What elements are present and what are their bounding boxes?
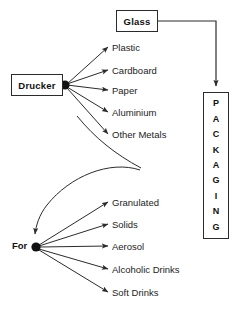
node-glass[interactable]: Glass [116,10,158,32]
leaf-label-plastic[interactable]: Plastic [112,43,140,53]
connector-group-drucker [67,47,108,134]
packaging-letter: C [213,130,220,139]
leaf-label-other-metals[interactable]: Other Metals [112,130,166,140]
leaf-label-cardboard[interactable]: Cardboard [112,66,157,76]
connector-drucker-other-metals [67,88,108,134]
leaf-label-aerosol[interactable]: Aerosol [112,242,144,252]
node-for[interactable]: For [12,241,27,251]
packaging-letter: G [212,176,219,185]
connector-for-soft-drinks [39,250,108,292]
packaging-letter: K [213,146,220,155]
leaf-label-aluminium[interactable]: Aluminium [112,108,156,118]
packaging-letter: P [213,99,219,108]
for-junction-dot [31,242,40,251]
leaf-label-granulated[interactable]: Granulated [112,198,159,208]
connector-for-aerosol [40,246,108,247]
packaging-letter: N [213,207,220,216]
node-packaging[interactable]: P A C K A G I N G [203,92,229,239]
leaf-label-paper[interactable]: Paper [112,86,137,96]
packaging-letter: A [213,161,220,170]
node-drucker[interactable]: Drucker [11,74,63,96]
connector-glass-to-packaging [158,21,216,86]
connector-for-alcoholic-drinks [39,249,108,269]
connector-drucker-aluminium [67,87,108,112]
leaf-label-alcoholic-drinks[interactable]: Alcoholic Drinks [112,265,180,275]
connector-group-for [39,202,108,292]
connector-for-solids [39,224,108,246]
connector-drucker-plastic [67,47,108,84]
connector-drucker-paper [67,85,108,90]
connector-drucker-cardboard [67,70,108,84]
leaf-label-solids[interactable]: Solids [112,220,138,230]
packaging-letter: I [215,192,218,201]
connector-for-granulated [39,202,108,245]
packaging-letter: A [213,115,220,124]
packaging-letter: G [212,223,219,232]
diagram-canvas: Glass Drucker For P A C K A G I N G Plas… [0,0,235,314]
leaf-label-soft-drinks[interactable]: Soft Drinks [112,288,158,298]
